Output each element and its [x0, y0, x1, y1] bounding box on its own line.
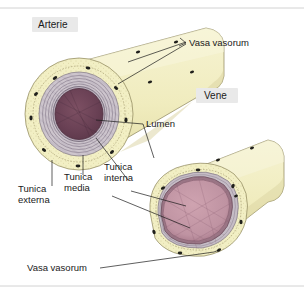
leader-vasa-bottom	[100, 252, 214, 268]
label-tunica-interna-line1: Tunica	[104, 161, 133, 172]
vein-title: Vene	[204, 90, 227, 101]
vein-illustration	[150, 140, 284, 262]
label-tunica-media-line2: media	[64, 182, 91, 193]
label-vasa-vasorum-bottom: Vasa vasorum	[27, 262, 87, 273]
vessel-anatomy-figure: Arterie Vene Vasa vasorum Lumen Tunica i…	[0, 0, 304, 305]
label-tunica-externa-line2: externa	[18, 194, 50, 205]
label-tunica-externa-line1: Tunica	[18, 183, 47, 194]
artery-title: Arterie	[38, 19, 68, 30]
label-lumen: Lumen	[146, 118, 175, 129]
vessel-diagram-svg: Arterie Vene Vasa vasorum Lumen Tunica i…	[0, 0, 304, 305]
artery-illustration	[25, 28, 224, 170]
label-tunica-interna-line2: interna	[104, 172, 134, 183]
label-tunica-media-line1: Tunica	[64, 171, 93, 182]
label-vasa-vasorum-top: Vasa vasorum	[189, 37, 249, 48]
